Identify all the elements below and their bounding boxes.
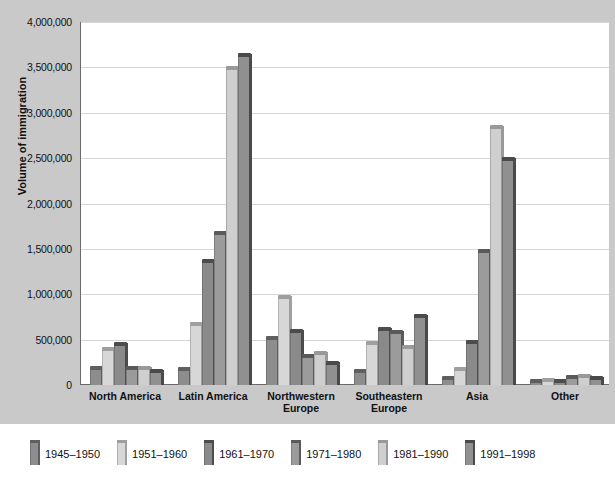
x-axis-label-line: Southeastern — [345, 390, 433, 402]
bar-side-face — [161, 370, 164, 385]
legend-swatch-side — [38, 441, 40, 465]
legend-label: 1961–1970 — [219, 448, 274, 460]
bar-side-face — [601, 377, 604, 385]
bar-group — [433, 22, 521, 385]
bar — [302, 358, 313, 385]
bar — [402, 349, 413, 385]
legend-item[interactable]: 1945–1950 — [30, 443, 100, 465]
bar — [102, 351, 113, 385]
legend-label: 1945–1950 — [45, 448, 100, 460]
legend-swatch — [117, 443, 125, 465]
bar-side-face — [513, 158, 516, 385]
legend-item[interactable]: 1991–1998 — [465, 443, 535, 465]
y-axis-tick: 2,500,000 — [27, 152, 72, 164]
bar-group — [169, 22, 257, 385]
y-axis-tick: 1,000,000 — [27, 288, 72, 300]
x-axis-label-line: Europe — [345, 402, 433, 414]
legend-label: 1981–1990 — [393, 448, 448, 460]
x-axis-label-line: Other — [521, 390, 609, 402]
bar — [566, 379, 577, 385]
bar — [590, 380, 601, 385]
bar-group — [345, 22, 433, 385]
chart-legend: 1945–19501951–19601961–19701971–19801981… — [0, 424, 615, 484]
legend-item[interactable]: 1961–1970 — [204, 443, 274, 465]
bar — [150, 373, 161, 385]
bar — [502, 161, 513, 385]
bar — [390, 334, 401, 385]
bar — [466, 344, 477, 385]
bar — [578, 378, 589, 385]
bar-group — [257, 22, 345, 385]
y-axis-tick: 2,000,000 — [27, 198, 72, 210]
x-axis-label: SoutheasternEurope — [345, 390, 433, 414]
bar — [90, 370, 101, 385]
bar — [326, 365, 337, 385]
bar — [378, 331, 389, 385]
x-axis-label: North America — [81, 390, 169, 414]
bar — [414, 318, 425, 385]
bar-side-face — [249, 54, 252, 386]
y-axis-tick: 3,500,000 — [27, 61, 72, 73]
x-axis-category-labels: North AmericaLatin AmericaNorthwesternEu… — [81, 390, 609, 414]
legend-swatch — [378, 443, 386, 465]
bar — [366, 345, 377, 385]
bar — [138, 370, 149, 385]
bar-groups — [81, 22, 609, 385]
x-axis-label: Asia — [433, 390, 521, 414]
x-axis-label-line: North America — [81, 390, 169, 402]
y-axis-tick: 0 — [66, 379, 72, 391]
bar — [114, 346, 125, 385]
bar — [202, 263, 213, 386]
y-axis-tick: 4,000,000 — [27, 16, 72, 28]
bar — [442, 380, 453, 385]
legend-item[interactable]: 1981–1990 — [378, 443, 448, 465]
legend-swatch — [465, 443, 473, 465]
bar — [226, 70, 237, 385]
x-axis-label-line: Asia — [433, 390, 521, 402]
bar — [554, 383, 565, 385]
bar — [190, 326, 201, 385]
bar-side-face — [425, 315, 428, 385]
bar — [290, 333, 301, 385]
y-axis-tick: 500,000 — [35, 334, 72, 346]
bar — [478, 253, 489, 385]
legend-swatch — [30, 443, 38, 465]
bar — [490, 129, 501, 385]
bar — [454, 371, 465, 385]
bar-side-face — [337, 362, 340, 385]
legend-swatch — [204, 443, 212, 465]
bar — [542, 382, 553, 385]
bar — [178, 371, 189, 385]
bar — [530, 383, 541, 385]
bar — [214, 235, 225, 385]
y-axis-tick: 3,000,000 — [27, 107, 72, 119]
bar-group — [81, 22, 169, 385]
legend-swatch-side — [473, 441, 475, 465]
immigration-bar-chart: Volume of immigration 4,000,0003,500,000… — [0, 0, 615, 484]
x-axis-label: Latin America — [169, 390, 257, 414]
legend-label: 1991–1998 — [480, 448, 535, 460]
legend-swatch-side — [299, 441, 301, 465]
bar — [314, 355, 325, 385]
legend-swatch-side — [212, 441, 214, 465]
legend-item[interactable]: 1951–1960 — [117, 443, 187, 465]
x-axis-label: NorthwesternEurope — [257, 390, 345, 414]
bar — [354, 373, 365, 385]
bar-group — [521, 22, 609, 385]
bar — [266, 340, 277, 385]
x-axis-label-line: Northwestern — [257, 390, 345, 402]
x-axis-label-line: Latin America — [169, 390, 257, 402]
y-axis-tick-labels: 4,000,0003,500,0003,000,0002,500,0002,00… — [0, 22, 76, 385]
legend-swatch-side — [386, 441, 388, 465]
legend-label: 1971–1980 — [306, 448, 361, 460]
legend-swatch-side — [125, 441, 127, 465]
chart-plot-region: Volume of immigration 4,000,0003,500,000… — [0, 0, 615, 424]
legend-label: 1951–1960 — [132, 448, 187, 460]
x-axis-label-line: Europe — [257, 402, 345, 414]
bar — [126, 370, 137, 385]
bar — [278, 299, 289, 385]
y-axis-tick: 1,500,000 — [27, 243, 72, 255]
legend-item[interactable]: 1971–1980 — [291, 443, 361, 465]
legend-swatch — [291, 443, 299, 465]
x-axis-label: Other — [521, 390, 609, 414]
